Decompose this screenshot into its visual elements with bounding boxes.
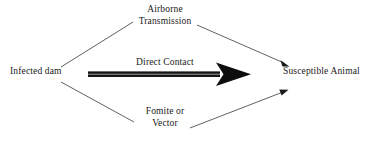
arrow-shaft-highlight: [88, 74, 220, 75]
arrow-head-triangle: [216, 63, 251, 87]
edge-label-airborne-line2: Transmission: [124, 16, 206, 28]
edge-label-airborne-transmission: Airborne Transmission: [124, 4, 206, 27]
edge-label-airborne-line1: Airborne: [124, 4, 206, 16]
edge-airborne-inbound-line: [61, 22, 133, 67]
edge-airborne-outbound-line: [197, 25, 284, 63]
edge-label-direct-contact-line1: Direct Contact: [124, 57, 206, 69]
node-label-infected-dam: Infected dam: [10, 66, 62, 78]
edge-fomite-arrowhead: [279, 90, 288, 96]
edge-label-fomite-line1: Fomite or: [124, 106, 206, 118]
node-label-susceptible-animal: Susceptible Animal: [283, 66, 360, 78]
edge-label-fomite-line2: Vector: [124, 118, 206, 130]
edge-label-fomite-vector: Fomite or Vector: [124, 106, 206, 129]
transmission-diagram: Infected dam Susceptible Animal Airborne…: [0, 0, 376, 145]
edge-label-direct-contact: Direct Contact: [124, 57, 206, 69]
